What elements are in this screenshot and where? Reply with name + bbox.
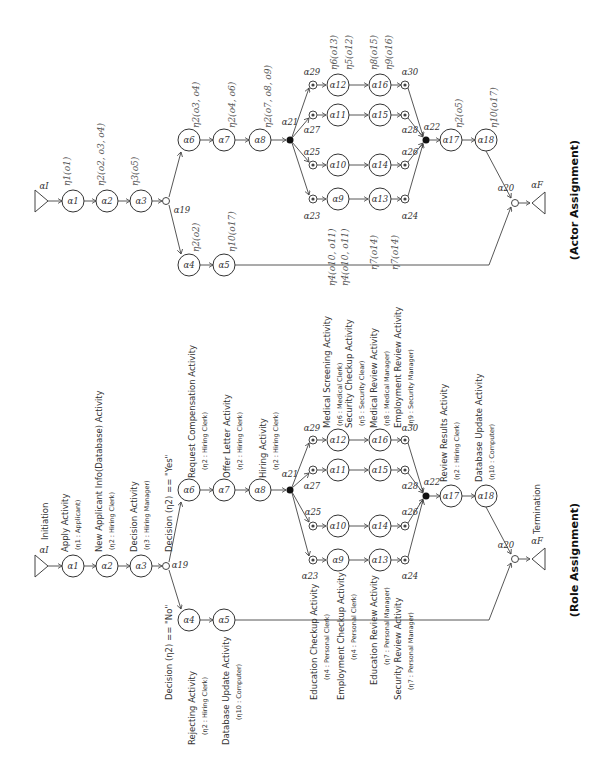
workflow-figure: αI α1 α2 α3 α19 η1(o1) η2(o2, o3, o4) η3…: [0, 0, 604, 776]
a4-activity-name: Rejecting Activity: [187, 671, 197, 745]
node-a23-id: α23: [302, 571, 319, 581]
xor-split-a19: [163, 198, 170, 205]
node-a13-id: α13: [372, 555, 389, 565]
node-a10-id: α10: [330, 521, 347, 531]
node-a29-id: α29: [304, 423, 321, 433]
a17-actor-annotation: η2(o5): [454, 98, 464, 128]
node-a10-id: α10: [330, 160, 347, 170]
node-a12-id: α12: [330, 80, 347, 90]
a2-activity-name: New Applicant Info(Database) Activity: [94, 390, 104, 552]
a16-role: (η8 : Medical Manager): [383, 351, 391, 426]
node-a17-id: α17: [443, 491, 460, 501]
node-a28-id: α28: [402, 125, 419, 135]
node-aF-id: αF: [531, 536, 544, 546]
node-a9-id: α9: [332, 555, 344, 565]
termination-triangle-icon: [532, 548, 545, 570]
node-a14-id: α14: [372, 521, 389, 531]
xor-split-a19: [163, 563, 170, 570]
branch-start-nodes: [309, 436, 317, 564]
and-join-a22: [423, 493, 430, 500]
a6-actor-annotation: η2(o3, o4): [191, 81, 201, 128]
branch-start-nodes: [309, 81, 317, 203]
node-a18-id: α18: [478, 491, 495, 501]
a17-role: (η2 : Hiring Clerk): [453, 422, 461, 480]
a12-activity-name: Medical Screening Activity: [322, 316, 332, 428]
a13-role: (η7 : Personal Manager): [383, 587, 391, 665]
a13-activity-name: Education Review Activity: [369, 575, 379, 685]
node-a16-id: α16: [372, 435, 389, 445]
a18-role: (η10 : Computer): [488, 424, 496, 480]
node-a3-id: α3: [135, 561, 146, 571]
node-a24-id: α24: [402, 571, 419, 581]
node-a2-id: α2: [101, 196, 112, 206]
node-a17-id: α17: [443, 135, 460, 145]
node-a22-id: α22: [424, 477, 441, 487]
a3-actor-annotation: η3(o5): [130, 156, 140, 186]
a9-role: (η4 : Personal Clerk): [323, 614, 331, 680]
role-assignment-title: (Role Assignment): [568, 503, 581, 617]
node-a28-id: α28: [402, 481, 419, 491]
a5-activity-name: Database Update Activity: [221, 636, 231, 745]
a1-activity-name: Apply Activity: [60, 494, 70, 553]
a2-actor-annotation: η2(o2, o3, o4): [96, 122, 106, 186]
node-a13-id: α13: [372, 194, 389, 204]
node-a12-id: α12: [330, 435, 347, 445]
node-a24-id: α24: [402, 211, 419, 221]
a12-actor-annotation: η6(o13): [329, 35, 339, 71]
a4-role: (η2 : Hiring Clerk): [201, 677, 209, 735]
a11-actor-annotation: η5(o12): [344, 35, 354, 71]
a3-role: (η3 : Hiring Manager): [143, 480, 151, 550]
a13-actor-annotation: η7(o14): [369, 235, 379, 271]
a8-actor-annotation: η2(o7, o8, o9): [263, 64, 273, 128]
a11-role: (η5 : Security Clear): [358, 361, 366, 426]
a9-actor-annotation: η4(o10, o11): [327, 228, 337, 286]
initiation-triangle-icon: [35, 190, 48, 212]
a6-activity-name: Request Compensation Activity: [187, 345, 197, 478]
a7-role: (η2 : Hiring Clerk): [236, 412, 244, 470]
node-a7-id: α7: [218, 485, 230, 495]
a7-activity-name: Offer Letter Activity: [222, 394, 232, 478]
a8-role: (η2 : Hiring Clerk): [272, 412, 280, 470]
and-join-a22: [423, 137, 430, 144]
termination-label: Termination: [532, 484, 542, 535]
a15-role: (η9 : Security Manager): [407, 349, 415, 426]
a1-role: (η1 : Applicant): [74, 500, 82, 550]
node-a27-id: α27: [304, 125, 321, 135]
initiation-triangle-icon: [35, 555, 48, 577]
node-a30-id: α30: [402, 67, 419, 77]
a15-activity-name: Employment Review Activity: [393, 307, 403, 428]
node-a3-id: α3: [135, 196, 146, 206]
node-a9-id: α9: [332, 194, 344, 204]
a18-actor-annotation: η10(o17): [489, 87, 499, 128]
a10-activity-name: Employment Checkup Activity: [336, 572, 346, 700]
node-a5-id: α5: [218, 260, 229, 270]
a2-role: (η2 : Hiring Clerk): [108, 492, 116, 550]
decision-yes-label: Decision (η2) == "Yes": [164, 454, 174, 552]
node-a1-id: α1: [67, 561, 78, 571]
node-a19-id: α19: [174, 205, 191, 215]
a9-activity-name: Education Checkup Activity: [309, 584, 319, 700]
a18-activity-name: Database Update Activity: [474, 373, 484, 482]
node-a27-id: α27: [304, 481, 321, 491]
a15-actor-annotation: η9(o16): [384, 35, 394, 71]
node-aF-id: αF: [531, 180, 544, 190]
branch-end-nodes: [401, 436, 409, 564]
node-a2-id: α2: [101, 561, 112, 571]
a10-role: (η4 : Personal Clerk): [350, 594, 358, 660]
node-a23-id: α23: [304, 211, 321, 221]
node-a5-id: α5: [218, 615, 229, 625]
a5-actor-annotation: η10(o17): [227, 211, 237, 252]
node-a26-id: α26: [402, 507, 419, 517]
actor-assignment-panel: αI α1 α2 α3 α19 η1(o1) η2(o2, o3, o4) η3…: [35, 35, 581, 287]
node-aI-label: αI: [39, 545, 49, 555]
a3-activity-name: Decision Activity: [129, 481, 139, 552]
xor-join-a20: [512, 556, 519, 563]
node-a11-id: α11: [330, 110, 347, 120]
branch-end-nodes: [401, 81, 409, 203]
node-a4-id: α4: [183, 615, 194, 625]
a7-actor-annotation: η2(o4, o6): [227, 81, 237, 128]
a14-activity-name: Security Review Activity: [393, 598, 403, 700]
a16-actor-annotation: η8(o15): [369, 35, 379, 71]
a14-actor-annotation: η7(o14): [390, 235, 400, 271]
node-a25-id: α25: [304, 147, 321, 157]
